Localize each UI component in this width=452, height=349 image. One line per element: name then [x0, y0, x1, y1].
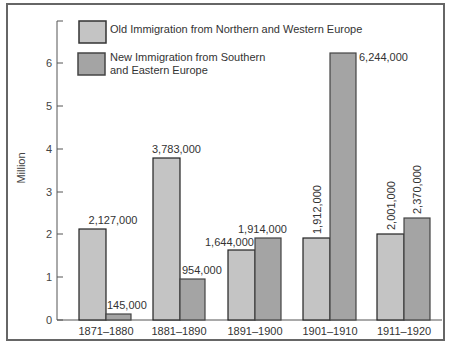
category-1901-1910: 1901–1910	[302, 325, 357, 337]
bar-old-1891-1900	[228, 250, 255, 320]
bar-old-1881-1890	[153, 158, 180, 320]
value-new-1871-1880: 145,000	[107, 299, 147, 311]
category-1881-1890: 1881–1890	[151, 325, 206, 337]
y-tick-5: 5	[46, 100, 52, 112]
bar-old-1901-1910	[303, 238, 330, 320]
bar-new-1891-1900	[255, 238, 281, 320]
legend-label-old: Old Immigration from Northern and Wester…	[110, 23, 362, 35]
category-1891-1900: 1891–1900	[227, 325, 282, 337]
y-tick-1: 1	[46, 271, 52, 283]
y-ticks	[57, 63, 63, 320]
y-tick-0: 0	[46, 314, 52, 326]
value-new-1911-1920: 2,370,000	[411, 165, 423, 214]
category-1871-1880: 1871–1880	[78, 325, 133, 337]
y-tick-4: 4	[46, 143, 52, 155]
legend: Old Immigration from Northern and Wester…	[78, 21, 362, 76]
value-old-1871-1880: 2,127,000	[89, 214, 138, 226]
bar-chart: 0 1 2 3 4 5 6 Million Old Immigration fr…	[0, 0, 452, 349]
legend-swatch-new	[78, 53, 105, 75]
value-old-1901-1910: 1,912,000	[311, 185, 323, 234]
value-new-1891-1900: 1,914,000	[238, 223, 287, 235]
bar-new-1911-1920	[404, 218, 430, 320]
legend-label-new-line1: New Immigration from Southern	[110, 51, 265, 63]
value-old-1891-1900: 1,644,000	[205, 236, 254, 248]
value-old-1911-1920: 2,001,000	[385, 181, 397, 230]
value-old-1881-1890: 3,783,000	[152, 143, 201, 155]
value-new-1901-1910: 6,244,000	[359, 51, 408, 63]
x-category-labels: 1871–1880 1881–1890 1891–1900 1901–1910 …	[78, 325, 431, 337]
bar-new-1871-1880	[106, 314, 131, 320]
bar-old-1871-1880	[79, 229, 106, 320]
bar-old-1911-1920	[377, 234, 404, 320]
legend-label-new-line2: and Eastern Europe	[110, 64, 208, 76]
y-tick-2: 2	[46, 228, 52, 240]
value-new-1881-1890: 954,000	[182, 264, 222, 276]
y-tick-3: 3	[46, 186, 52, 198]
legend-swatch-old	[79, 21, 106, 43]
bar-new-1901-1910	[330, 53, 356, 320]
y-tick-labels: 0 1 2 3 4 5 6	[46, 57, 52, 326]
y-axis-title: Million	[15, 152, 27, 183]
y-tick-6: 6	[46, 57, 52, 69]
category-1911-1920: 1911–1920	[377, 325, 431, 337]
bar-new-1881-1890	[180, 279, 205, 320]
